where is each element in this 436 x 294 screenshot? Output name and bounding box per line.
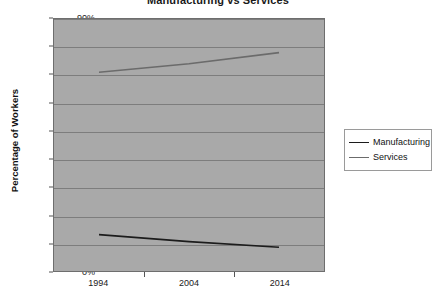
plot-area (53, 18, 325, 272)
series-line-manufacturing (99, 235, 279, 248)
x-axis-tick-mark (144, 272, 145, 277)
x-axis-tick-label: 1994 (68, 278, 128, 288)
legend-item-services[interactable]: Services (349, 150, 427, 165)
chart-container: Manufacturing vs Services Percentage of … (0, 0, 436, 294)
legend-line-swatch-services (349, 157, 369, 158)
legend-label-services: Services (373, 153, 408, 162)
chart-legend: Manufacturing Services (344, 129, 432, 171)
legend-line-swatch-manufacturing (349, 142, 369, 143)
x-axis-tick-label: 2014 (250, 278, 310, 288)
series-lines (54, 19, 324, 271)
y-axis-title: Percentage of Workers (9, 76, 20, 206)
x-axis-tick-mark (234, 272, 235, 277)
legend-item-manufacturing[interactable]: Manufacturing (349, 135, 427, 150)
legend-label-manufacturing: Manufacturing (373, 138, 430, 147)
series-line-services (99, 53, 279, 73)
x-axis-tick-label: 2004 (159, 278, 219, 288)
chart-title: Manufacturing vs Services (0, 0, 436, 6)
